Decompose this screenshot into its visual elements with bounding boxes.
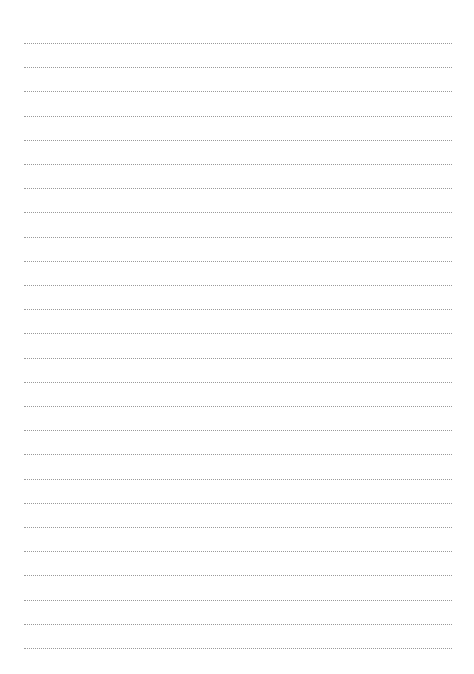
ruled-line	[24, 67, 452, 68]
ruled-line	[24, 188, 452, 189]
ruled-line	[24, 551, 452, 552]
ruled-line	[24, 164, 452, 165]
ruled-line	[24, 140, 452, 141]
ruled-line	[24, 624, 452, 625]
ruled-line	[24, 648, 452, 649]
ruled-line	[24, 91, 452, 92]
lined-page	[0, 0, 474, 674]
ruled-line	[24, 333, 452, 334]
ruled-line	[24, 43, 452, 44]
ruled-line	[24, 358, 452, 359]
ruled-line	[24, 575, 452, 576]
ruled-line	[24, 261, 452, 262]
ruled-line	[24, 382, 452, 383]
ruled-line	[24, 600, 452, 601]
ruled-line	[24, 454, 452, 455]
ruled-line	[24, 237, 452, 238]
ruled-line	[24, 285, 452, 286]
ruled-line	[24, 479, 452, 480]
ruled-line	[24, 430, 452, 431]
ruled-line	[24, 309, 452, 310]
ruled-line	[24, 406, 452, 407]
ruled-line	[24, 527, 452, 528]
ruled-line	[24, 503, 452, 504]
ruled-line	[24, 212, 452, 213]
ruled-line	[24, 116, 452, 117]
